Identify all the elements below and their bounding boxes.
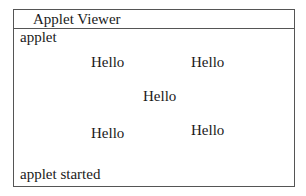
applet-menu[interactable]: applet <box>20 29 57 45</box>
status-bar-text: applet started <box>20 166 100 182</box>
hello-label: Hello <box>143 88 176 104</box>
applet-viewer-window: Applet Viewer applet Hello Hello Hello H… <box>13 9 295 187</box>
title-bar: Applet Viewer <box>14 10 294 29</box>
hello-label: Hello <box>91 54 124 70</box>
hello-label: Hello <box>191 54 224 70</box>
hello-label: Hello <box>191 122 224 138</box>
window-title: Applet Viewer <box>33 11 121 27</box>
hello-label: Hello <box>91 125 124 141</box>
